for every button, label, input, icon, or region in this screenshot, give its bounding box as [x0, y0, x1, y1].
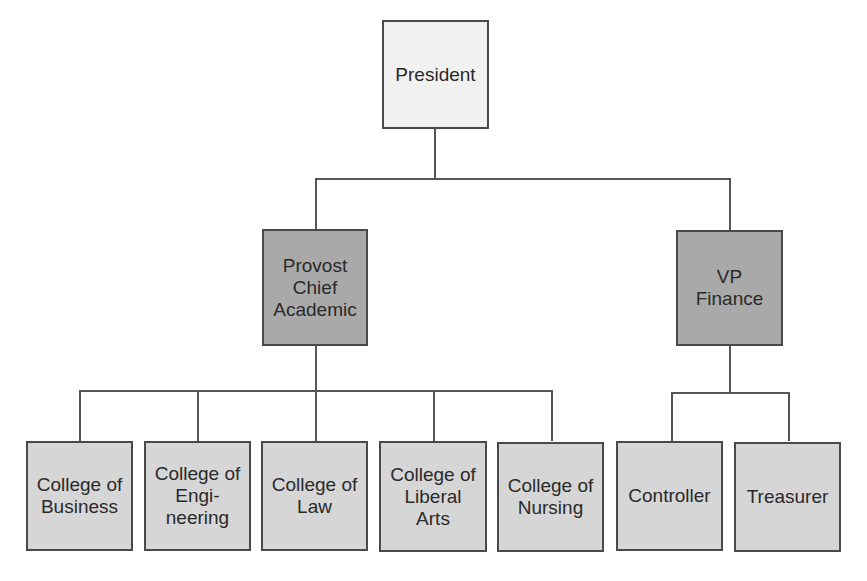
- node-college-engineering: College of Engi- neering: [144, 441, 251, 551]
- node-controller: Controller: [616, 441, 723, 551]
- node-label: College of Nursing: [508, 475, 594, 519]
- connector-vp-down: [729, 345, 731, 393]
- connector-to-business: [79, 390, 81, 441]
- connector-provost-down: [315, 345, 317, 391]
- node-label: Provost Chief Academic: [273, 255, 356, 321]
- node-president: President: [382, 20, 489, 129]
- connector-to-treasurer: [788, 392, 790, 441]
- connector-to-vp-finance: [729, 178, 731, 230]
- node-provost: Provost Chief Academic: [262, 229, 368, 346]
- node-label: College of Law: [272, 474, 358, 518]
- node-treasurer: Treasurer: [734, 442, 841, 552]
- node-label: President: [395, 64, 475, 86]
- node-label: VP Finance: [696, 266, 764, 310]
- node-college-business: College of Business: [26, 441, 133, 551]
- connector-to-provost: [315, 178, 317, 229]
- connector-to-engineering: [197, 390, 199, 441]
- connector-finance-bar: [671, 392, 789, 394]
- connector-to-controller: [671, 392, 673, 441]
- node-label: Controller: [628, 485, 710, 507]
- node-vp-finance: VP Finance: [676, 230, 783, 346]
- connector-to-liberal-arts: [433, 390, 435, 441]
- connector-to-law: [315, 390, 317, 441]
- connector-top-bar: [315, 178, 730, 180]
- node-label: College of Liberal Arts: [390, 464, 476, 530]
- connector-president-down: [434, 128, 436, 179]
- node-college-liberal-arts: College of Liberal Arts: [379, 441, 487, 552]
- node-college-nursing: College of Nursing: [497, 442, 604, 552]
- connector-to-nursing: [551, 390, 553, 441]
- node-label: Treasurer: [747, 486, 829, 508]
- node-college-law: College of Law: [261, 441, 368, 551]
- node-label: College of Engi- neering: [155, 463, 241, 529]
- node-label: College of Business: [37, 474, 123, 518]
